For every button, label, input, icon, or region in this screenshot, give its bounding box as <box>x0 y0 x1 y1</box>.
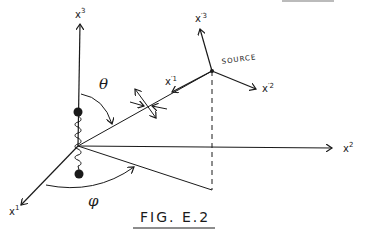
x2p-label: x′2 <box>262 82 274 94</box>
x1-axis <box>21 146 78 205</box>
x2-label: x2 <box>343 141 353 154</box>
phi-label: φ <box>88 192 99 210</box>
x2p-axis <box>212 71 256 89</box>
figure-e2: x3 x2 x1 x′3 x′2 x′1 SOURCE θ φ FIG. E.2 <box>0 0 365 229</box>
x3-label: x3 <box>75 7 85 20</box>
top-bar <box>282 0 334 2</box>
x1p-label: x′1 <box>165 75 177 87</box>
source-label: SOURCE <box>221 53 257 66</box>
theta-arc <box>81 94 112 124</box>
x3p-label: x′3 <box>195 12 207 24</box>
x3p-axis <box>200 29 212 71</box>
figure-caption: FIG. E.2 <box>140 209 210 225</box>
x1-label: x1 <box>9 204 19 217</box>
x2-axis <box>78 146 332 148</box>
projection-line <box>78 146 212 190</box>
source-point <box>210 69 214 73</box>
phi-arc <box>46 167 134 188</box>
theta-label: θ <box>99 75 108 93</box>
x1p-axis <box>172 71 212 92</box>
